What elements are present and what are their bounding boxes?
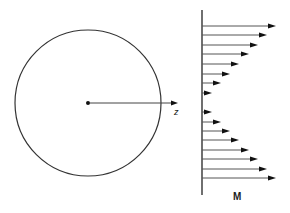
- stress-arrow: [202, 33, 267, 38]
- moment-label: M: [233, 191, 241, 202]
- arrowhead-icon: [241, 148, 249, 153]
- arrowhead-icon: [213, 120, 221, 125]
- stress-arrow: [202, 110, 212, 115]
- stress-arrow: [202, 81, 221, 86]
- arrowhead-icon: [268, 176, 276, 181]
- stress-arrow: [202, 176, 276, 181]
- arrowhead-icon: [231, 62, 239, 67]
- arrowhead-icon: [231, 138, 239, 143]
- arrowhead-icon: [204, 110, 212, 115]
- stress-arrow: [202, 167, 267, 172]
- arrowhead-icon: [213, 81, 221, 86]
- radius-label: z: [173, 107, 179, 117]
- arrowhead-icon: [259, 33, 267, 38]
- stress-arrow: [202, 62, 239, 67]
- arrowhead-icon: [241, 52, 249, 57]
- arrowhead-icon: [222, 129, 230, 134]
- arrowhead-icon: [268, 24, 276, 29]
- figure-group: z M: [15, 10, 276, 202]
- stress-arrow: [202, 148, 249, 153]
- stress-arrow: [202, 129, 230, 134]
- arrowhead-icon: [259, 167, 267, 172]
- stress-arrow: [202, 72, 230, 77]
- stress-arrow: [202, 24, 276, 29]
- stress-arrow: [202, 43, 258, 48]
- arrowhead-icon: [204, 91, 212, 96]
- stress-arrow: [202, 91, 212, 96]
- radius-arrowhead-icon: [171, 101, 178, 106]
- stress-arrow: [202, 52, 249, 57]
- arrowhead-icon: [222, 72, 230, 77]
- bending-stress-diagram: z M: [0, 0, 290, 213]
- center-dot: [86, 101, 90, 105]
- arrowhead-icon: [250, 157, 258, 162]
- stress-arrow: [202, 138, 239, 143]
- arrowhead-icon: [250, 43, 258, 48]
- stress-distribution-arrows: [202, 24, 276, 181]
- stress-arrow: [202, 157, 258, 162]
- stress-arrow: [202, 120, 221, 125]
